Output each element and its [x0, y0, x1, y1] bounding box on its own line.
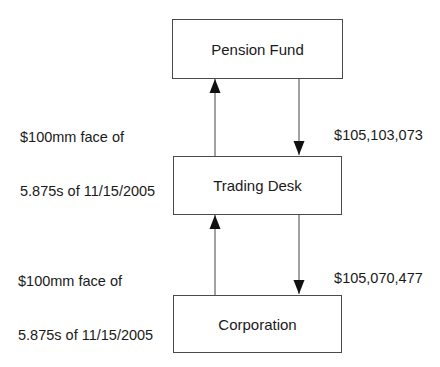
node-corporation: Corporation — [173, 295, 342, 353]
edge-label-bonds-upper: $100mm face of 5.875s of 11/15/2005 — [20, 92, 155, 218]
edge-label-line: $100mm face of — [18, 272, 153, 290]
edge-label-bonds-lower: $100mm face of 5.875s of 11/15/2005 — [18, 236, 153, 362]
node-label: Trading Desk — [213, 177, 302, 194]
node-label: Pension Fund — [211, 41, 304, 58]
edge-label-cash-lower: $105,070,477 — [326, 251, 423, 287]
edge-label-line: 5.875s of 11/15/2005 — [20, 182, 155, 200]
edge-label-cash-upper: $105,103,073 — [326, 108, 423, 144]
node-pension-fund: Pension Fund — [172, 19, 343, 79]
edge-label-line: 5.875s of 11/15/2005 — [18, 326, 153, 344]
node-trading-desk: Trading Desk — [173, 156, 342, 215]
edge-label-text: $105,070,477 — [334, 270, 423, 286]
edge-label-text: $105,103,073 — [334, 127, 423, 143]
node-label: Corporation — [218, 316, 296, 333]
edge-label-line: $100mm face of — [20, 128, 155, 146]
